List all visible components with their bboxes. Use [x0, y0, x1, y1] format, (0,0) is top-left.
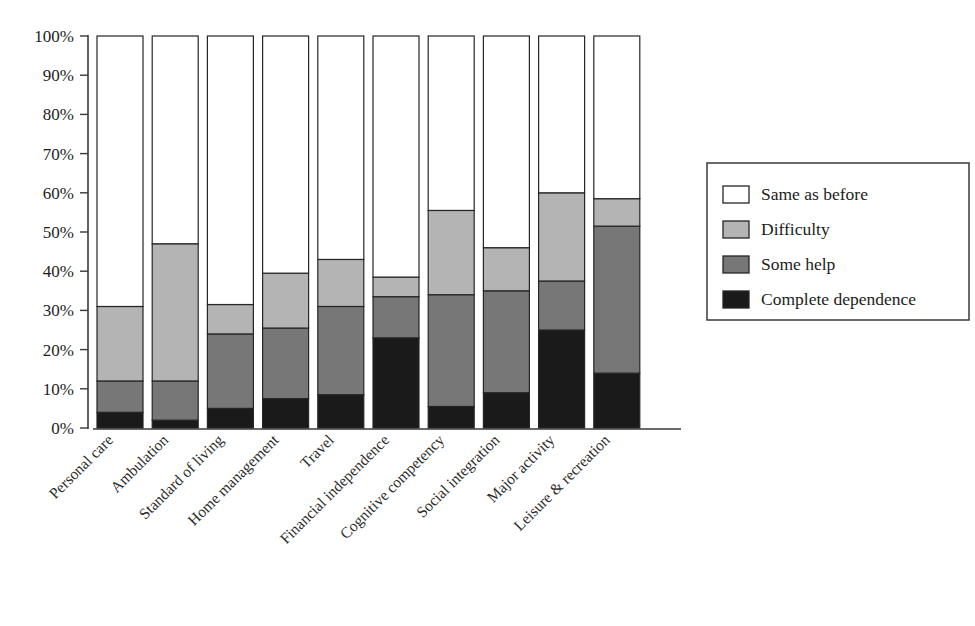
- bar-segment: [263, 273, 309, 328]
- bar-segment: [539, 36, 585, 193]
- y-axis-tick-label: 50%: [43, 223, 74, 242]
- bar-segment: [152, 36, 198, 244]
- bar-segment: [483, 248, 529, 291]
- legend-item-label: Same as before: [761, 184, 868, 204]
- bar-segment: [594, 36, 640, 199]
- bar-segment: [428, 210, 474, 294]
- stacked-bar-chart: 100%90%80%70%60%50%40%30%20%10%0% Person…: [0, 0, 975, 626]
- bar-segment: [207, 334, 253, 408]
- bar-segment: [483, 36, 529, 248]
- legend-item-label: Some help: [761, 254, 836, 274]
- stacked-bar: [483, 36, 529, 428]
- bar-segment: [373, 277, 419, 297]
- bar-segment: [318, 36, 364, 259]
- legend-swatch: [723, 256, 749, 273]
- bar-segment: [318, 259, 364, 306]
- bar-segment: [318, 306, 364, 394]
- stacked-bar: [594, 36, 640, 428]
- y-axis-tick-label: 80%: [43, 105, 74, 124]
- bars-layer: [97, 36, 640, 428]
- x-axis-tick-label: Cognitive competency: [336, 431, 447, 542]
- y-axis-tick-label: 0%: [51, 419, 74, 438]
- legend-item[interactable]: Same as before: [723, 184, 868, 204]
- legend-swatch: [723, 291, 749, 308]
- x-axis-tick-label: Financial independence: [276, 431, 392, 547]
- legend-item[interactable]: Some help: [723, 254, 836, 274]
- bar-segment: [539, 281, 585, 330]
- stacked-bar: [318, 36, 364, 428]
- bar-segment: [207, 36, 253, 305]
- bar-segment: [207, 305, 253, 334]
- y-axis-tick-label: 60%: [43, 184, 74, 203]
- x-axis-tick-label: Home management: [184, 431, 282, 529]
- y-axis-tick-label: 90%: [43, 66, 74, 85]
- x-axis-tick-label: Leisure & recreation: [510, 431, 613, 534]
- y-axis-tick-label: 100%: [34, 27, 74, 46]
- bar-segment: [373, 36, 419, 277]
- stacked-bar: [152, 36, 198, 428]
- bar-segment: [318, 395, 364, 428]
- stacked-bar: [373, 36, 419, 428]
- bar-segment: [594, 199, 640, 226]
- bar-segment: [263, 328, 309, 399]
- bar-segment: [483, 291, 529, 393]
- stacked-bar: [207, 36, 253, 428]
- stacked-bar: [263, 36, 309, 428]
- bar-segment: [97, 306, 143, 380]
- bar-segment: [428, 406, 474, 428]
- bar-segment: [539, 330, 585, 428]
- bar-segment: [594, 226, 640, 373]
- chart-svg: 100%90%80%70%60%50%40%30%20%10%0% Person…: [0, 0, 975, 626]
- y-axis-tick-label: 70%: [43, 145, 74, 164]
- bar-segment: [97, 381, 143, 412]
- legend-item-label: Difficulty: [761, 219, 830, 239]
- bar-segment: [594, 373, 640, 428]
- bar-segment: [97, 36, 143, 306]
- y-axis: 100%90%80%70%60%50%40%30%20%10%0%: [34, 27, 88, 438]
- bar-segment: [539, 193, 585, 281]
- bar-segment: [428, 36, 474, 210]
- stacked-bar: [428, 36, 474, 428]
- y-axis-tick-label: 40%: [43, 262, 74, 281]
- x-axis-labels: Personal careAmbulationStandard of livin…: [45, 431, 613, 547]
- chart-legend: Same as beforeDifficultySome helpComplet…: [707, 163, 969, 320]
- x-axis-tick-label: Personal care: [45, 431, 116, 502]
- bar-segment: [483, 393, 529, 428]
- legend-swatch: [723, 221, 749, 238]
- bar-segment: [152, 244, 198, 381]
- bar-segment: [97, 412, 143, 428]
- stacked-bar: [539, 36, 585, 428]
- y-axis-tick-label: 20%: [43, 341, 74, 360]
- legend-item-label: Complete dependence: [761, 289, 916, 309]
- bar-segment: [373, 297, 419, 338]
- y-axis-tick-label: 10%: [43, 380, 74, 399]
- bar-segment: [152, 381, 198, 420]
- x-axis-tick-label: Travel: [297, 431, 337, 471]
- bar-segment: [207, 408, 253, 428]
- bar-segment: [428, 295, 474, 407]
- legend-item[interactable]: Difficulty: [723, 219, 830, 239]
- bar-segment: [373, 338, 419, 428]
- bar-segment: [263, 36, 309, 273]
- y-axis-tick-label: 30%: [43, 301, 74, 320]
- bar-segment: [263, 399, 309, 428]
- bar-segment: [152, 420, 198, 428]
- stacked-bar: [97, 36, 143, 428]
- legend-swatch: [723, 186, 749, 203]
